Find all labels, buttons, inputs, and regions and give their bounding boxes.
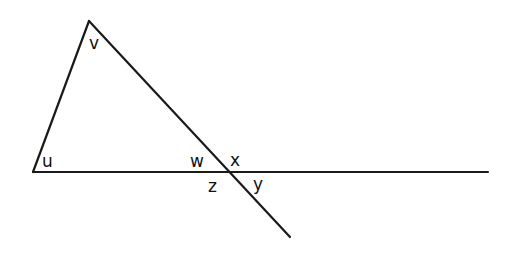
angle-label-x: x (230, 150, 240, 170)
angle-label-v: v (89, 33, 99, 53)
angle-label-u: u (42, 151, 53, 171)
angle-label-w: w (190, 151, 204, 171)
triangle-left-side (33, 21, 89, 172)
angle-label-z: z (208, 176, 217, 196)
transversal-line (89, 21, 290, 237)
angle-diagram: v u w x z y (0, 0, 511, 257)
angle-label-y: y (253, 174, 263, 194)
